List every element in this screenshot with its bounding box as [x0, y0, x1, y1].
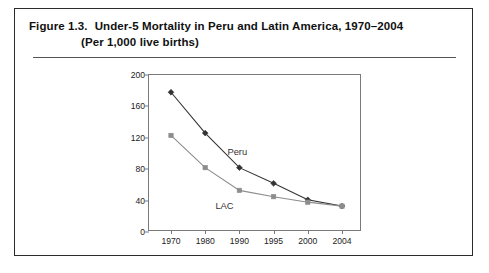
y-axis-tick-mark — [145, 200, 149, 201]
y-axis-tick-label: 200 — [131, 70, 145, 80]
x-axis-tick-mark — [171, 230, 172, 234]
chart-svg — [149, 75, 362, 232]
plot-area: 04080120160200197019801990199520002004Pe… — [148, 74, 361, 231]
x-axis-tick-label: 2004 — [332, 236, 351, 246]
y-axis-tick-mark — [145, 232, 149, 233]
y-axis-tick-mark — [145, 75, 149, 76]
x-axis-tick-mark — [308, 230, 309, 234]
x-axis-tick-mark — [342, 230, 343, 234]
series-line-lac — [171, 135, 342, 206]
data-point-marker-peru — [271, 180, 277, 186]
y-axis-tick-mark — [145, 137, 149, 138]
chart-container: 04080120160200197019801990199520002004Pe… — [15, 9, 474, 257]
y-axis-tick-label: 120 — [131, 133, 145, 143]
figure-frame: Figure 1.3. Under-5 Mortality in Peru an… — [14, 8, 473, 256]
data-point-marker-lac — [306, 200, 310, 204]
x-axis-tick-label: 1970 — [161, 236, 180, 246]
y-axis-tick-mark — [145, 106, 149, 107]
x-axis-tick-mark — [239, 230, 240, 234]
data-point-marker-lac — [169, 133, 173, 137]
x-axis-tick-label: 1980 — [196, 236, 215, 246]
data-point-marker-lac — [340, 204, 344, 208]
x-axis-tick-label: 2000 — [298, 236, 317, 246]
series-annotation-lac: LAC — [215, 200, 233, 211]
data-point-marker-lac — [237, 188, 241, 192]
x-axis-tick-mark — [274, 230, 275, 234]
y-axis-tick-label: 80 — [135, 164, 145, 174]
data-point-marker-lac — [203, 165, 207, 169]
series-annotation-peru: Peru — [227, 146, 247, 157]
y-axis-tick-mark — [145, 169, 149, 170]
data-point-marker-lac — [271, 194, 275, 198]
y-axis-tick-label: 160 — [131, 101, 145, 111]
y-axis-tick-label: 40 — [135, 196, 145, 206]
x-axis-tick-label: 1990 — [230, 236, 249, 246]
x-axis-tick-mark — [205, 230, 206, 234]
series-line-peru — [171, 92, 342, 206]
x-axis-tick-label: 1995 — [264, 236, 283, 246]
